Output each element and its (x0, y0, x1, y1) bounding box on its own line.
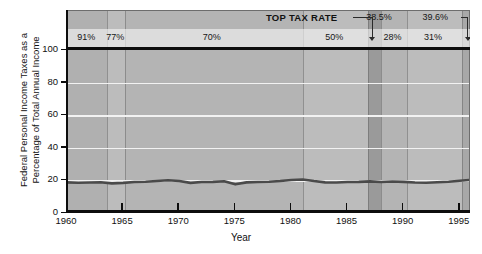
callout-arrow-icon (465, 37, 470, 41)
callout-leader-horizontal (353, 17, 372, 18)
x-tick-mark-1990 (402, 203, 404, 211)
y-tick-mark-0 (61, 212, 66, 214)
y-tick-mark-80 (61, 81, 66, 83)
top-tax-rate-header: TOP TAX RATE 91%77%70%50%28%31% 38.5%39.… (66, 10, 470, 48)
x-tick-label-1960: 1960 (46, 215, 86, 226)
y-tick-mark-100 (61, 49, 66, 51)
y-tick-label-40: 40 (36, 141, 58, 152)
x-tick-label-1975: 1975 (214, 215, 254, 226)
x-tick-mark-1965 (121, 203, 123, 211)
band-label-70: 70% (187, 32, 237, 42)
band-label-77: 77% (90, 32, 140, 42)
y-tick-mark-40 (61, 146, 66, 148)
x-tick-label-1990: 1990 (383, 215, 423, 226)
x-tick-label-1970: 1970 (158, 215, 198, 226)
y-tick-label-100: 100 (36, 43, 58, 54)
y-axis-line (66, 10, 68, 213)
band-label-50: 50% (309, 32, 359, 42)
x-tick-label-1965: 1965 (102, 215, 142, 226)
callout-label-39-6: 39.6% (407, 12, 463, 22)
y-tick-mark-20 (61, 179, 66, 181)
x-tick-label-1980: 1980 (270, 215, 310, 226)
y-tick-mark-60 (61, 114, 66, 116)
x-tick-mark-1985 (346, 203, 348, 211)
callout-leader-vertical (467, 17, 468, 38)
x-tick-mark-1980 (290, 203, 292, 211)
x-tick-mark-1975 (234, 203, 236, 211)
y-axis-title-line-1: Federal Personal Income Taxes as a (18, 10, 30, 210)
y-tick-label-20: 20 (36, 173, 58, 184)
top-tax-rate-divider-line (66, 47, 470, 50)
x-axis-title: Year (0, 232, 482, 243)
x-tick-label-1995: 1995 (439, 215, 479, 226)
x-tick-mark-1970 (177, 203, 179, 211)
chart-figure: Federal Personal Income Taxes as a Perce… (0, 0, 482, 254)
callout-arrow-icon (369, 37, 375, 41)
y-tick-label-60: 60 (36, 108, 58, 119)
callout-leader-vertical (372, 17, 373, 38)
band-label-31: 31% (408, 32, 458, 42)
y-tick-label-80: 80 (36, 76, 58, 87)
top-tax-rate-title: TOP TAX RATE (237, 12, 367, 23)
x-tick-label-1985: 1985 (327, 215, 367, 226)
x-axis-line (66, 210, 470, 213)
x-tick-mark-1995 (458, 203, 460, 211)
